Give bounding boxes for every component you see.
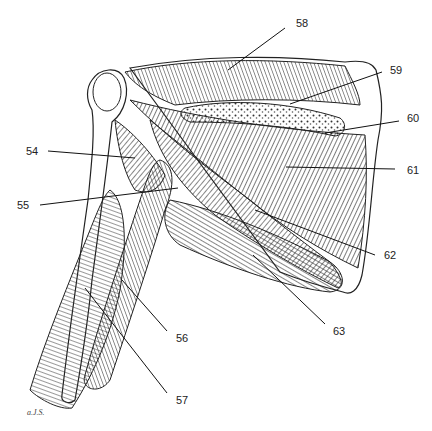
label-54: 54 xyxy=(26,146,38,157)
label-55: 55 xyxy=(17,200,29,211)
label-60: 60 xyxy=(407,113,419,124)
artist-signature: a.J.S. xyxy=(27,408,45,417)
label-57: 57 xyxy=(176,395,188,406)
label-58: 58 xyxy=(296,18,308,29)
muscle-58 xyxy=(125,61,360,105)
label-62: 62 xyxy=(384,250,396,261)
label-59: 59 xyxy=(390,65,402,76)
label-61: 61 xyxy=(407,165,419,176)
humeral-head xyxy=(93,73,121,111)
label-56: 56 xyxy=(176,333,188,344)
label-63: 63 xyxy=(333,326,345,337)
anatomy-illustration xyxy=(0,0,432,431)
